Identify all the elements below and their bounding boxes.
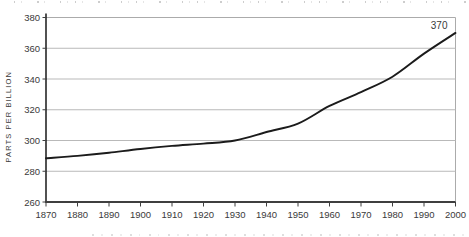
y-tick-label-300: 300: [24, 135, 40, 146]
x-tick-label-1910: 1910: [161, 209, 182, 220]
x-tick-label-1900: 1900: [130, 209, 151, 220]
y-tick-label-280: 280: [24, 166, 40, 177]
x-tick-label-1950: 1950: [287, 209, 308, 220]
y-tick-label-360: 360: [24, 43, 40, 54]
x-tick-label-1930: 1930: [224, 209, 245, 220]
y-tick-label-260: 260: [24, 197, 40, 208]
y-tick-label-340: 340: [24, 74, 40, 85]
y-axis-title: PARTS PER BILLION: [4, 71, 13, 162]
x-tick-label-1990: 1990: [413, 209, 434, 220]
end-point-label: 370: [431, 20, 448, 31]
x-tick-label-1940: 1940: [256, 209, 277, 220]
x-tick-label-1870: 1870: [35, 209, 56, 220]
line-chart: 2602803003203403603801870188018901900191…: [0, 0, 469, 237]
x-tick-label-1970: 1970: [350, 209, 371, 220]
data-line: [46, 33, 456, 158]
x-tick-label-1880: 1880: [67, 209, 88, 220]
x-tick-label-1980: 1980: [382, 209, 403, 220]
clipped-caption-fragments-top: [14, 0, 466, 4]
x-tick-label-1890: 1890: [98, 209, 119, 220]
y-tick-label-380: 380: [24, 12, 40, 23]
x-tick-label-2000: 2000: [445, 209, 466, 220]
clipped-text-fragments-bottom: [92, 233, 464, 236]
x-tick-label-1960: 1960: [319, 209, 340, 220]
chart-figure: 2602803003203403603801870188018901900191…: [0, 0, 469, 237]
y-tick-label-320: 320: [24, 104, 40, 115]
x-tick-label-1920: 1920: [193, 209, 214, 220]
